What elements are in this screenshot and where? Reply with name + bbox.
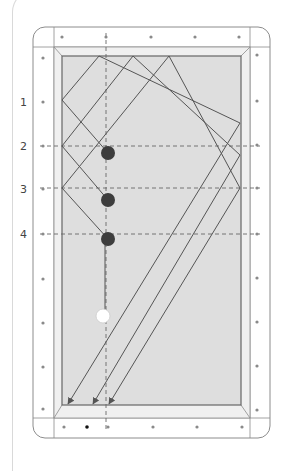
- row-label: 1: [20, 96, 27, 109]
- row-label: 4: [20, 228, 27, 241]
- diamond-icon: [41, 321, 44, 324]
- marked-diamond-icon: [85, 425, 89, 429]
- object-ball-3: [101, 193, 115, 207]
- diamond-icon: [41, 56, 44, 59]
- diamond-icon: [41, 365, 44, 368]
- row-label: 3: [20, 183, 27, 196]
- diamond-icon: [255, 186, 258, 189]
- diamond-icon: [255, 276, 258, 279]
- diamond-icon: [237, 35, 240, 38]
- diamond-icon: [240, 425, 243, 428]
- diamond-icon: [255, 143, 258, 146]
- diamond-icon: [255, 232, 258, 235]
- diamond-icon: [60, 35, 63, 38]
- diamond-icon: [62, 425, 65, 428]
- diamond-icon: [104, 35, 107, 38]
- row-labels: 1234: [20, 96, 27, 241]
- diamond-icon: [149, 35, 152, 38]
- diamond-icon: [193, 35, 196, 38]
- diamond-icon: [195, 425, 198, 428]
- diamond-icon: [255, 320, 258, 323]
- cue-ball: [96, 309, 110, 323]
- object-ball-4: [101, 232, 115, 246]
- object-ball-2: [101, 146, 115, 160]
- diamond-icon: [106, 425, 109, 428]
- diamond-icon: [41, 277, 44, 280]
- diamond-icon: [151, 425, 154, 428]
- diamond-icon: [255, 99, 258, 102]
- diamond-icon: [255, 53, 258, 56]
- diamond-icon: [41, 100, 44, 103]
- row-label: 2: [20, 140, 27, 153]
- diamond-icon: [255, 408, 258, 411]
- diamond-icon: [41, 407, 44, 410]
- diamond-icon: [41, 232, 44, 235]
- diamond-icon: [41, 144, 44, 147]
- diamond-icon: [255, 364, 258, 367]
- diamond-icon: [41, 187, 44, 190]
